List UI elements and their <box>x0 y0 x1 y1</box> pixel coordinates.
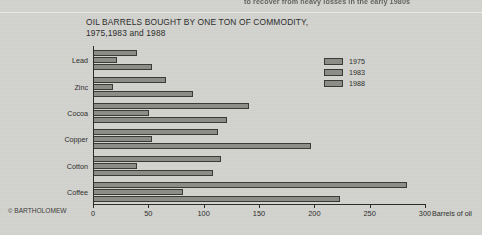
bar-group-lead <box>93 50 425 70</box>
legend-label-1975: 1975 <box>349 57 365 66</box>
legend-label-1983: 1983 <box>349 68 365 77</box>
legend-swatch-1975 <box>324 58 343 65</box>
x-tick-250 <box>370 204 371 208</box>
category-label-zinc: Zinc <box>20 82 88 91</box>
bar-cocoa-1988 <box>93 117 227 123</box>
x-tick-100 <box>204 204 205 208</box>
bar-coffee-1975 <box>93 182 407 188</box>
x-tick-label-200: 200 <box>308 209 320 218</box>
bar-lead-1983 <box>93 57 117 63</box>
bar-group-copper <box>93 129 425 149</box>
bar-cotton-1983 <box>93 163 137 169</box>
bar-cocoa-1983 <box>93 110 149 116</box>
bar-cotton-1988 <box>93 170 213 176</box>
x-tick-label-300: 300 <box>419 209 431 218</box>
bar-zinc-1983 <box>93 84 113 90</box>
x-tick-label-0: 0 <box>91 209 95 218</box>
legend-swatch-1988 <box>324 80 343 87</box>
x-tick-0 <box>93 204 94 208</box>
top-running-text: to recover from heavy losses in the earl… <box>244 0 410 6</box>
bar-zinc-1975 <box>93 77 166 83</box>
category-label-cotton: Cotton <box>20 161 88 170</box>
x-tick-200 <box>314 204 315 208</box>
bar-group-cotton <box>93 156 425 176</box>
top-divider <box>0 12 482 13</box>
y-axis-line <box>93 46 94 205</box>
x-tick-50 <box>148 204 149 208</box>
bar-lead-1988 <box>93 64 152 70</box>
category-label-coffee: Coffee <box>20 187 88 196</box>
x-tick-label-150: 150 <box>253 209 265 218</box>
x-axis-label: Barrels of oil <box>432 209 472 218</box>
legend-swatch-1983 <box>324 69 343 76</box>
bar-coffee-1988 <box>93 196 340 202</box>
publisher-name: BARTHOLOMEW <box>14 207 66 214</box>
bar-zinc-1988 <box>93 91 193 97</box>
x-tick-300 <box>425 204 426 208</box>
chart-subtitle: 1975,1983 and 1988 <box>86 28 308 39</box>
x-tick-label-50: 50 <box>144 209 152 218</box>
legend-label-1988: 1988 <box>349 79 365 88</box>
bar-copper-1988 <box>93 143 311 149</box>
x-tick-label-250: 250 <box>363 209 375 218</box>
copyright-icon: © <box>8 208 12 214</box>
bar-copper-1983 <box>93 136 152 142</box>
bar-cocoa-1975 <box>93 103 249 109</box>
bar-group-zinc <box>93 77 425 97</box>
category-label-lead: Lead <box>20 56 88 65</box>
chart-title: OIL BARRELS BOUGHT BY ONE TON OF COMMODI… <box>86 17 308 38</box>
bar-group-coffee <box>93 182 425 202</box>
chart-title-line1: OIL BARRELS BOUGHT BY ONE TON OF COMMODI… <box>86 17 308 27</box>
bar-lead-1975 <box>93 50 137 56</box>
category-label-cocoa: Cocoa <box>20 108 88 117</box>
publisher-credit: © BARTHOLOMEW <box>8 207 67 214</box>
bar-coffee-1983 <box>93 189 183 195</box>
chart-page: to recover from heavy losses in the earl… <box>0 0 482 235</box>
bar-group-cocoa <box>93 103 425 123</box>
bar-cotton-1975 <box>93 156 221 162</box>
category-label-copper: Copper <box>20 135 88 144</box>
x-tick-150 <box>259 204 260 208</box>
plot-area <box>93 46 425 204</box>
bar-copper-1975 <box>93 129 218 135</box>
x-tick-label-100: 100 <box>197 209 209 218</box>
